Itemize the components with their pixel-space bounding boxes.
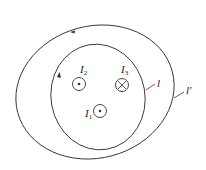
inner-loop-arrow-icon — [57, 72, 61, 78]
outer-loop — [1, 8, 190, 170]
label-I2: I2 — [79, 63, 88, 77]
label-l: l — [157, 77, 160, 89]
ampere-loop-diagram: I2 I3 I1 l l′ — [0, 0, 206, 170]
inner-loop-leader — [146, 84, 155, 90]
dot-icon — [99, 110, 102, 113]
label-I3: I3 — [120, 63, 129, 77]
outer-loop-leader — [174, 92, 184, 98]
cross-icon — [118, 81, 126, 89]
label-l-prime: l′ — [186, 84, 192, 96]
inner-loop — [43, 37, 154, 158]
dot-icon — [78, 83, 81, 86]
label-I1: I1 — [84, 107, 93, 121]
outer-loop-arrow-icon — [70, 31, 75, 34]
